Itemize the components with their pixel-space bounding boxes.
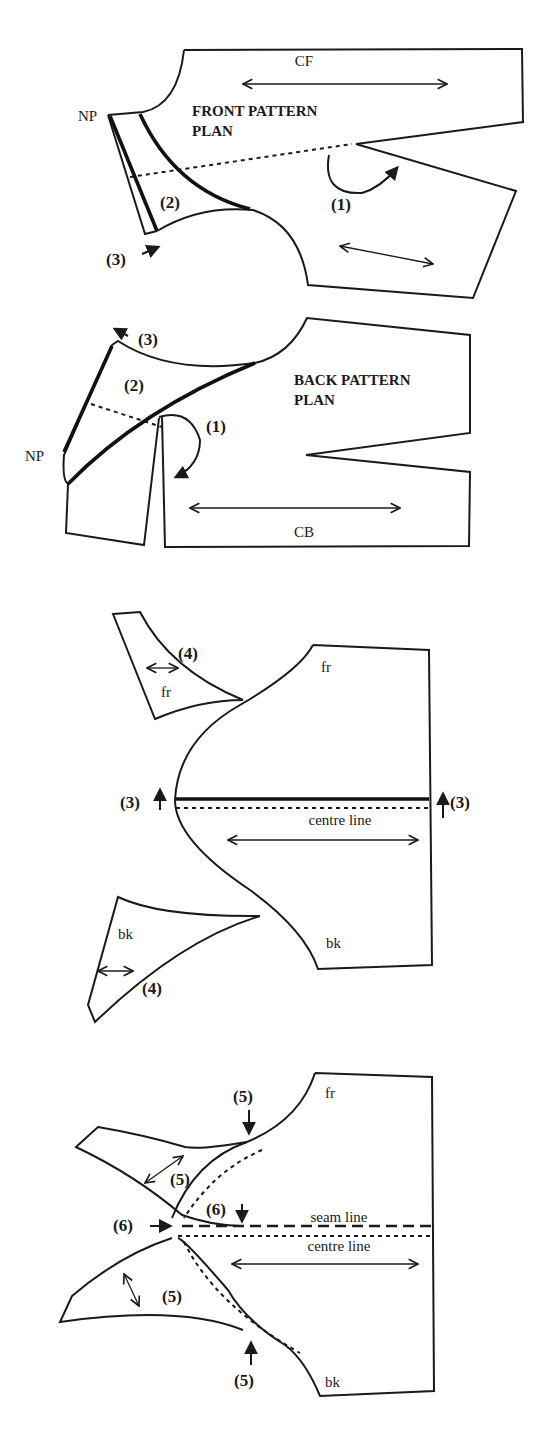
back-step-1: (1) [206,417,226,436]
front-dotted-guide [130,144,352,177]
final-step-5-bottom: (5) [234,1371,254,1390]
back-step-2: (2) [124,376,144,395]
final-pattern: (5) fr (5) (6) seam line (6) centre line… [60,1073,434,1396]
combined-fr-label: fr [321,659,331,675]
front-title-line2: PLAN [192,123,233,139]
np-label-back: NP [25,448,44,464]
back-pattern-plan: (3) (2) (1) NP BACK PATTERN PLAN CB [25,318,470,547]
front-step-2: (2) [160,193,180,212]
step-3-arrow-icon [115,329,128,336]
step-3-arrow-icon [142,247,158,254]
front-piece-label: fr [161,684,171,700]
final-body-outline [172,1073,434,1396]
final-seam-line-label: seam line [310,1209,367,1225]
back-shoulder-edge [64,346,112,452]
final-fr-label: fr [325,1085,335,1101]
combined-step-3-right: (3) [450,793,470,812]
rotate-arrow-icon [328,155,397,193]
final-step-5-upper: (5) [170,1170,190,1189]
back-piece-step-4: (4) [142,979,162,998]
final-bk-label: bk [325,1374,341,1390]
final-step-5-lower: (5) [162,1287,182,1306]
combined-centre-line-label: centre line [309,812,372,828]
front-neckline [108,50,184,115]
pattern-diagram: CF NP FRONT PATTERN PLAN (2) (1) (3) (3)… [0,0,539,1432]
final-step-5-top: (5) [233,1087,253,1106]
back-title-line2: PLAN [294,392,335,408]
final-step-6-top: (6) [206,1200,226,1219]
front-title-line1: FRONT PATTERN [192,103,318,119]
combined-pattern: (4) fr fr (3) (3) centre line bk bk (4) [88,612,470,1022]
front-step-3: (3) [106,250,126,269]
np-label-front: NP [78,108,97,124]
front-piece-outline [113,612,243,719]
rotate-arrow-icon [159,415,200,477]
back-title-line1: BACK PATTERN [294,372,411,388]
front-bodice-outline [157,49,523,298]
back-step-3: (3) [138,330,158,349]
combined-bk-label: bk [326,935,342,951]
front-piece-step-4: (4) [178,644,198,663]
front-pattern-plan: CF NP FRONT PATTERN PLAN (2) (1) (3) [78,49,523,298]
cf-label: CF [295,53,313,69]
back-piece-label: bk [118,926,134,942]
final-step-6-left: (6) [113,1216,133,1235]
final-back-grain-arrow [124,1274,139,1306]
back-piece-outline [88,897,260,1022]
front-lower-grain-arrow [340,246,433,264]
final-back-extension [60,1238,243,1330]
final-centre-line-label: centre line [308,1238,371,1254]
cb-label: CB [294,524,314,540]
back-neckline [112,341,255,366]
combined-step-3-left: (3) [120,793,140,812]
front-step-1: (1) [331,195,351,214]
